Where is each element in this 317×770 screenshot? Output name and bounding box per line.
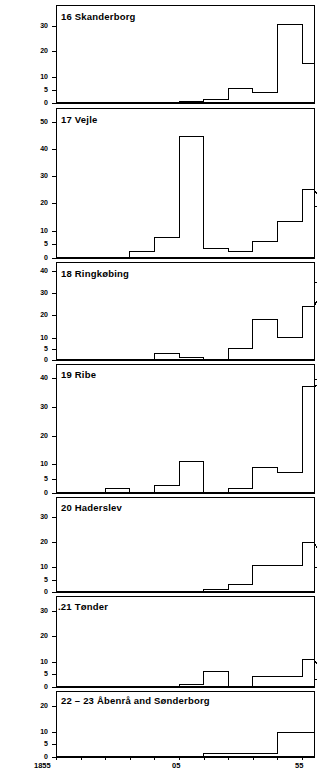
ytick-label-5-5: 5 bbox=[18, 576, 48, 583]
ytick-mark-2-20 bbox=[52, 203, 56, 204]
plot-area-2 bbox=[56, 108, 315, 258]
xtick-mark-1895 bbox=[154, 757, 155, 760]
ytick-mark-5-30 bbox=[52, 517, 56, 518]
ytick-label-2-20: 20 bbox=[18, 199, 48, 206]
ytick-mark-3-40 bbox=[52, 271, 56, 272]
ytick-mark-1-20 bbox=[52, 51, 56, 52]
ytick-mark-1-30 bbox=[52, 26, 56, 27]
xtick-label-05: 05 bbox=[172, 761, 180, 770]
ytick-label-5-20: 20 bbox=[18, 538, 48, 545]
y-axis-5 bbox=[56, 497, 57, 593]
ytick-mark-2-0 bbox=[52, 258, 56, 259]
ytick-label-6-20: 20 bbox=[18, 632, 48, 639]
xtick-label-55: 55 bbox=[295, 761, 303, 770]
ytick-label-7-10: 10 bbox=[18, 728, 48, 735]
ytick-mark-2-30 bbox=[52, 176, 56, 177]
xtick-mark-1955 bbox=[302, 757, 303, 760]
xtick-mark-1945 bbox=[277, 757, 278, 760]
ytick-mark-2-10 bbox=[52, 231, 56, 232]
baseline-1 bbox=[56, 102, 315, 104]
ytick-mark-6-10 bbox=[52, 662, 56, 663]
ytick-label-4-10: 10 bbox=[18, 460, 48, 467]
xtick-mark-1865 bbox=[81, 757, 82, 760]
ytick-label-2-5: 5 bbox=[18, 240, 48, 247]
ytick-label-3-10: 10 bbox=[18, 334, 48, 341]
xtick-mark-1885 bbox=[130, 757, 131, 760]
xtick-label-1855: 1855 bbox=[34, 761, 51, 770]
ytick-label-3-0: 0 bbox=[18, 356, 48, 363]
y-axis-6 bbox=[56, 596, 57, 688]
panel-title-3: 18 Ringkøbing bbox=[61, 268, 129, 279]
ytick-label-3-30: 30 bbox=[18, 289, 48, 296]
xtick-mark-1875 bbox=[105, 757, 106, 760]
ytick-label-6-30: 30 bbox=[18, 607, 48, 614]
ytick-label-4-0: 0 bbox=[18, 489, 48, 496]
panel-title-4: 19 Ribe bbox=[61, 369, 96, 380]
ytick-label-4-5: 5 bbox=[18, 475, 48, 482]
ytick-mark-4-20 bbox=[52, 436, 56, 437]
ytick-mark-2-50 bbox=[52, 122, 56, 123]
ytick-label-2-40: 40 bbox=[18, 145, 48, 152]
xtick-mark-1855 bbox=[56, 757, 57, 760]
ytick-label-7-20: 20 bbox=[18, 702, 48, 709]
ytick-label-3-5: 5 bbox=[18, 345, 48, 352]
y-axis-2 bbox=[56, 108, 57, 259]
ytick-mark-2-5 bbox=[52, 244, 56, 245]
ytick-mark-4-0 bbox=[52, 493, 56, 494]
ytick-label-7-0: 0 bbox=[18, 753, 48, 760]
xtick-mark-1915 bbox=[204, 757, 205, 760]
panel-title-1: 16 Skanderborg bbox=[61, 11, 136, 22]
ytick-label-4-20: 20 bbox=[18, 432, 48, 439]
ytick-label-2-50: 50 bbox=[18, 118, 48, 125]
baseline-2 bbox=[56, 257, 315, 259]
ytick-mark-3-20 bbox=[52, 315, 56, 316]
y-axis-7 bbox=[56, 691, 57, 758]
ytick-mark-1-0 bbox=[52, 103, 56, 104]
xtick-mark-1925 bbox=[228, 757, 229, 760]
ytick-label-1-0: 0 bbox=[18, 99, 48, 106]
ytick-mark-4-5 bbox=[52, 479, 56, 480]
xtick-mark-1935 bbox=[253, 757, 254, 760]
ytick-mark-4-40 bbox=[52, 378, 56, 379]
ytick-mark-3-10 bbox=[52, 338, 56, 339]
panel-title-7: 22 – 23 Åbenrå and Sønderborg bbox=[61, 695, 210, 706]
ytick-mark-7-20 bbox=[52, 706, 56, 707]
ytick-mark-6-30 bbox=[52, 611, 56, 612]
ytick-mark-4-30 bbox=[52, 407, 56, 408]
panel-title-5: 20 Haderslev bbox=[61, 502, 122, 513]
ytick-mark-4-10 bbox=[52, 464, 56, 465]
ytick-mark-6-0 bbox=[52, 687, 56, 688]
ytick-label-3-40: 40 bbox=[18, 267, 48, 274]
baseline-5 bbox=[56, 591, 315, 593]
ytick-label-7-5: 5 bbox=[18, 740, 48, 747]
y-axis-4 bbox=[56, 364, 57, 494]
ytick-mark-6-20 bbox=[52, 636, 56, 637]
ytick-mark-3-5 bbox=[52, 349, 56, 350]
panel-title-2: 17 Vejle bbox=[61, 114, 97, 125]
baseline-6 bbox=[56, 686, 315, 688]
ytick-label-6-0: 0 bbox=[18, 683, 48, 690]
panel-title-6: .21 Tønder bbox=[58, 601, 108, 612]
ytick-label-4-30: 30 bbox=[18, 403, 48, 410]
ytick-mark-1-5 bbox=[52, 90, 56, 91]
ytick-label-2-10: 10 bbox=[18, 227, 48, 234]
ytick-label-1-10: 10 bbox=[18, 73, 48, 80]
ytick-mark-2-40 bbox=[52, 149, 56, 150]
xtick-mark-1905 bbox=[179, 757, 180, 760]
ytick-label-5-0: 0 bbox=[18, 588, 48, 595]
ytick-label-5-30: 30 bbox=[18, 513, 48, 520]
y-axis-3 bbox=[56, 262, 57, 361]
ytick-label-1-30: 30 bbox=[18, 22, 48, 29]
plot-area-4 bbox=[56, 364, 315, 493]
ytick-mark-5-5 bbox=[52, 580, 56, 581]
ytick-mark-3-30 bbox=[52, 293, 56, 294]
ytick-label-6-10: 10 bbox=[18, 658, 48, 665]
ytick-mark-3-0 bbox=[52, 360, 56, 361]
figure-root: 0510203016 Skanderborg05102030405017 Vej… bbox=[0, 0, 317, 770]
ytick-mark-7-10 bbox=[52, 732, 56, 733]
baseline-3 bbox=[56, 359, 315, 361]
ytick-label-6-5: 5 bbox=[18, 670, 48, 677]
ytick-label-1-20: 20 bbox=[18, 47, 48, 54]
ytick-label-2-30: 30 bbox=[18, 172, 48, 179]
ytick-mark-5-0 bbox=[52, 592, 56, 593]
